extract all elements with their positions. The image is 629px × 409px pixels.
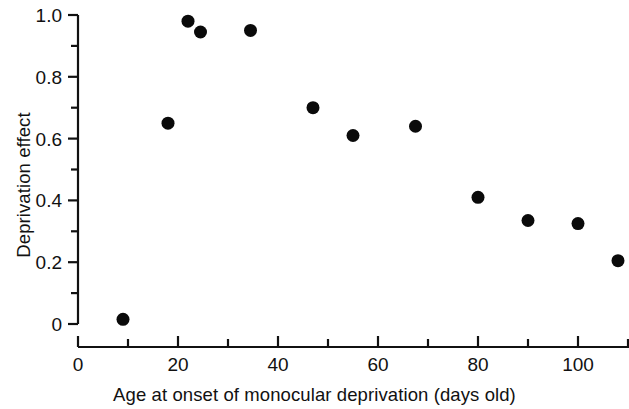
data-markers [117, 15, 625, 326]
x-axis-title: Age at onset of monocular deprivation (d… [0, 384, 629, 406]
data-point [182, 15, 195, 28]
data-point [522, 214, 535, 227]
data-point [307, 101, 320, 114]
y-axis: 00.20.40.60.81.0 [36, 5, 78, 335]
data-point [472, 191, 485, 204]
data-point [409, 120, 422, 133]
x-axis: 020406080100 [73, 336, 629, 375]
x-tick-label: 0 [73, 354, 84, 375]
scatter-plot-figure: 00.20.40.60.81.0 020406080100 Age at ons… [0, 0, 629, 409]
x-tick-label: 100 [562, 354, 594, 375]
y-axis-title: Deprivation effect [13, 65, 35, 305]
data-point [194, 25, 207, 38]
y-tick-label: 0 [51, 314, 62, 335]
y-tick-label: 0.4 [36, 190, 63, 211]
y-tick-label: 0.6 [36, 129, 62, 150]
data-point [572, 217, 585, 230]
y-tick-label: 0.8 [36, 67, 62, 88]
x-tick-label: 20 [167, 354, 188, 375]
y-tick-label: 0.2 [36, 252, 62, 273]
data-point [347, 129, 360, 142]
data-point [117, 313, 130, 326]
x-tick-label: 80 [467, 354, 488, 375]
data-point [162, 117, 175, 130]
x-tick-label: 40 [267, 354, 288, 375]
plot-canvas: 00.20.40.60.81.0 020406080100 [0, 0, 629, 409]
x-tick-label: 60 [367, 354, 388, 375]
data-point [612, 254, 625, 267]
data-point [244, 24, 257, 37]
y-tick-label: 1.0 [36, 5, 62, 26]
